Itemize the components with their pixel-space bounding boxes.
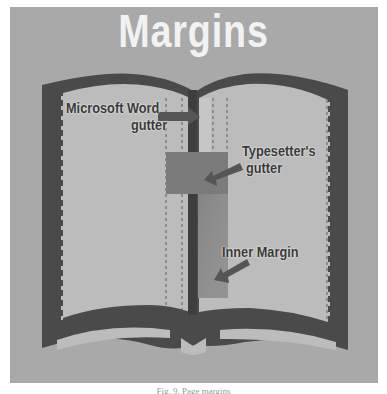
label-inner-margin: Inner Margin <box>222 244 299 260</box>
open-book-illustration <box>0 0 387 394</box>
label-typesetter-line1: Typesetter's <box>242 143 316 159</box>
word-gutter-strip <box>199 98 211 152</box>
label-typesetter-line2: gutter <box>246 160 282 176</box>
typesetter-gutter-block <box>166 152 228 194</box>
label-word-gutter-line1: Microsoft Word <box>66 100 159 116</box>
label-word-gutter-line2: gutter <box>131 117 167 133</box>
figure-caption: Fig. 9. Page margins <box>0 386 387 394</box>
